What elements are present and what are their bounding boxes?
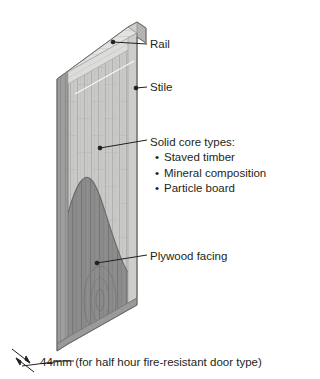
solid-core-types-list: •Staved timber •Mineral composition •Par… [155, 150, 266, 197]
label-thickness-dimension: 44mm (for half hour fire-resistant door … [40, 356, 262, 370]
list-item: •Mineral composition [155, 166, 266, 182]
list-item: •Particle board [155, 181, 266, 197]
door-slab [57, 22, 146, 351]
label-solid-core-heading: Solid core types: [150, 136, 235, 150]
bullet-icon: • [155, 181, 164, 197]
bullet-icon: • [155, 166, 164, 182]
label-rail: Rail [150, 38, 170, 52]
label-plywood-facing: Plywood facing [150, 250, 227, 264]
list-item-label: Staved timber [164, 151, 235, 163]
leader-stile [134, 86, 147, 90]
stile-member [128, 33, 137, 303]
list-item-label: Mineral composition [164, 167, 266, 179]
label-stile: Stile [150, 81, 172, 95]
list-item: •Staved timber [155, 150, 266, 166]
list-item-label: Particle board [164, 182, 235, 194]
door-edge-face [57, 72, 68, 344]
bullet-icon: • [155, 150, 164, 166]
